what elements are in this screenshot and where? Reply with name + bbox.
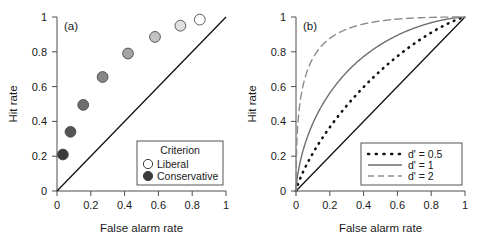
panel-a-xtick-1: 0.2 bbox=[83, 199, 98, 211]
panel-b-y-axis-title: Hit rate bbox=[246, 85, 258, 122]
data-point bbox=[175, 20, 186, 31]
legend-label-dprime-2: d' = 2 bbox=[408, 170, 434, 182]
panel-b-ytick-5: 1 bbox=[280, 11, 286, 23]
panel-a-legend[interactable]: Criterion Liberal Conservative bbox=[137, 141, 223, 185]
panel-b-ytick-0: 0 bbox=[280, 185, 286, 197]
legend-label-liberal: Liberal bbox=[157, 158, 189, 170]
data-point bbox=[78, 100, 89, 111]
panel-b-plot: 0 0.2 0.4 0.6 0.8 1 0 0.2 0.4 0.6 0.8 1 … bbox=[239, 0, 478, 246]
panel-b-xtick-3: 0.6 bbox=[390, 199, 405, 211]
data-point bbox=[123, 48, 134, 59]
data-point bbox=[97, 72, 108, 83]
legend-marker-liberal-icon bbox=[143, 159, 152, 168]
panel-a-x-axis-title: False alarm rate bbox=[100, 222, 183, 234]
panel-a-ytick-0: 0 bbox=[41, 185, 47, 197]
legend-label-conservative: Conservative bbox=[157, 170, 218, 182]
panel-b-ytick-3: 0.6 bbox=[271, 81, 286, 93]
panel-b-y-ticks bbox=[291, 17, 296, 191]
panel-a-tag: (a) bbox=[64, 20, 78, 32]
panel-a-ytick-4: 0.8 bbox=[32, 46, 47, 58]
panel-a-data-points bbox=[58, 14, 206, 160]
panel-a-y-axis-title: Hit rate bbox=[7, 85, 19, 122]
panel-b-tag: (b) bbox=[303, 20, 317, 32]
panel-b-xtick-2: 0.4 bbox=[356, 199, 371, 211]
panel-a-ytick-3: 0.6 bbox=[32, 81, 47, 93]
panel-b-xtick-0: 0 bbox=[293, 199, 299, 211]
panel-b-ytick-2: 0.4 bbox=[271, 115, 286, 127]
panel-b-xtick-1: 0.2 bbox=[322, 199, 337, 211]
panel-a-xtick-4: 0.8 bbox=[185, 199, 200, 211]
panel-a-xtick-3: 0.6 bbox=[151, 199, 166, 211]
panel-a-plot: 0 0.2 0.4 0.6 0.8 1 0 0.2 0.4 0.6 0.8 1 … bbox=[0, 0, 239, 246]
panel-a-ytick-2: 0.4 bbox=[32, 115, 47, 127]
panel-b-xtick-5: 1 bbox=[462, 199, 468, 211]
data-point bbox=[65, 126, 76, 137]
panel-a-xtick-5: 1 bbox=[223, 199, 229, 211]
panel-a: 0 0.2 0.4 0.6 0.8 1 0 0.2 0.4 0.6 0.8 1 … bbox=[0, 0, 239, 246]
legend-marker-conservative-icon bbox=[143, 171, 152, 180]
data-point bbox=[58, 149, 69, 160]
panel-b-ytick-1: 0.2 bbox=[271, 150, 286, 162]
panel-a-ytick-5: 1 bbox=[41, 11, 47, 23]
panel-b-xtick-4: 0.8 bbox=[424, 199, 439, 211]
panel-a-x-ticks bbox=[57, 191, 226, 196]
panel-b-x-ticks bbox=[296, 191, 465, 196]
panel-a-xtick-2: 0.4 bbox=[117, 199, 132, 211]
panel-a-y-ticks bbox=[52, 17, 57, 191]
panel-b-legend[interactable]: d' = 0.5 d' = 1 d' = 2 bbox=[361, 143, 462, 185]
panel-b-ytick-4: 0.8 bbox=[271, 46, 286, 58]
panel-a-xtick-0: 0 bbox=[54, 199, 60, 211]
panel-a-ytick-1: 0.2 bbox=[32, 150, 47, 162]
panel-b: 0 0.2 0.4 0.6 0.8 1 0 0.2 0.4 0.6 0.8 1 … bbox=[239, 0, 478, 246]
panel-b-x-axis-title: False alarm rate bbox=[339, 222, 422, 234]
data-point bbox=[150, 32, 161, 43]
roc-figure: 0 0.2 0.4 0.6 0.8 1 0 0.2 0.4 0.6 0.8 1 … bbox=[0, 0, 478, 246]
legend-title: Criterion bbox=[160, 144, 200, 156]
data-point bbox=[194, 14, 205, 25]
